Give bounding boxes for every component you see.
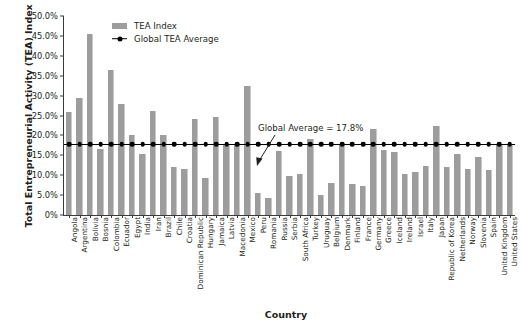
- x-axis-category-label: South Africa: [302, 217, 309, 261]
- x-axis-title: Country: [58, 309, 514, 320]
- x-axis-category-label: Bolivia: [92, 217, 99, 241]
- x-axis-category-label: Hungary: [207, 217, 214, 248]
- x-axis-category-label: Israel: [417, 217, 424, 237]
- x-axis-category-label: Italy: [427, 217, 434, 233]
- x-axis-category-label: France: [365, 217, 372, 241]
- bar: [339, 145, 346, 215]
- x-axis-category-label: Spain: [490, 217, 497, 237]
- x-axis-category-labels: AngolaArgentinaBoliviaBosniaColombiaEcua…: [63, 217, 514, 307]
- x-axis-category-label: Republic of Korea: [448, 217, 455, 281]
- bar: [486, 170, 493, 215]
- bar: [181, 169, 188, 215]
- x-axis-category-label: Iceland: [396, 217, 403, 243]
- x-axis-category-label: Russia: [281, 217, 288, 240]
- x-axis-category-label: United States: [511, 217, 518, 266]
- x-axis-category-label: Denmark: [344, 217, 351, 251]
- x-axis-category-label: Iran: [155, 217, 162, 231]
- bar: [265, 198, 272, 215]
- global-average-annotation: Global Average = 17.8%: [258, 123, 363, 133]
- bar: [192, 119, 199, 215]
- bar: [244, 86, 251, 215]
- bar: [171, 167, 178, 215]
- x-axis-category-label: Japan: [438, 217, 445, 237]
- plot-area: 0%5.0%10.0%15.0%20.0%25.0%30.0%35.0%40.0…: [63, 16, 515, 216]
- bar: [286, 176, 293, 215]
- x-axis-category-label: Brazil: [165, 217, 172, 237]
- bar: [223, 145, 230, 215]
- x-axis-category-label: Germany: [375, 217, 382, 251]
- x-axis-category-label: Norway: [469, 217, 476, 245]
- x-axis-category-label: Serbia: [291, 217, 298, 240]
- bar: [507, 145, 514, 215]
- bar: [360, 186, 367, 215]
- bar: [297, 174, 304, 215]
- bar: [76, 98, 83, 215]
- bar: [255, 193, 262, 215]
- x-axis-category-label: Mexico: [249, 217, 256, 242]
- bar: [150, 111, 157, 215]
- bar: [475, 157, 482, 215]
- x-axis-category-label: India: [144, 217, 151, 235]
- x-axis-category-label: Finland: [354, 217, 361, 243]
- chart-legend: TEA Index Global TEA Average: [112, 19, 219, 45]
- bar: [307, 139, 314, 215]
- bar: [412, 172, 419, 215]
- bar: [139, 154, 146, 215]
- x-axis-category-label: Ireland: [406, 217, 413, 242]
- bar: [318, 195, 325, 215]
- bar: [202, 178, 209, 215]
- bar: [328, 183, 335, 215]
- annotation-arrow-icon: [253, 133, 277, 167]
- x-axis-category-label: Egypt: [134, 217, 141, 238]
- x-axis-category-label: Ecuador: [123, 217, 130, 247]
- tea-index-bar-chart: Total Entrepreneurial Activity (TEA) Ind…: [0, 0, 522, 331]
- x-axis-category-label: Belgium: [333, 217, 340, 247]
- x-axis-category-label: Romania: [270, 217, 277, 249]
- bar: [391, 152, 398, 215]
- bar: [454, 154, 461, 215]
- bar: [349, 184, 356, 215]
- legend-item-tea-index: TEA Index: [112, 19, 219, 32]
- x-axis-category-label: Argentina: [81, 217, 88, 253]
- x-axis-category-label: Angola: [71, 217, 78, 242]
- x-axis-category-label: Slovenia: [480, 217, 487, 248]
- y-axis-title: Total Entrepreneurial Activity (TEA) Ind…: [23, 18, 34, 228]
- x-axis-category-label: Turkey: [312, 217, 319, 241]
- bar: [66, 112, 73, 215]
- bar: [465, 169, 472, 215]
- bar: [423, 166, 430, 215]
- bar: [129, 135, 136, 215]
- bar: [118, 104, 125, 215]
- bar: [381, 150, 388, 215]
- legend-item-global-average: Global TEA Average: [112, 32, 219, 45]
- x-axis-category-label: Netherlands: [459, 217, 466, 261]
- x-axis-category-label: Uruguay: [323, 217, 330, 248]
- bar: [444, 167, 451, 215]
- x-axis-category-label: Colombia: [113, 217, 120, 251]
- x-axis-category-label: Macedonia: [239, 217, 246, 257]
- x-axis-category-label: United Kingdom: [501, 217, 508, 276]
- legend-line-marker-icon: [112, 36, 127, 42]
- bar: [213, 117, 220, 215]
- bar: [433, 126, 440, 215]
- bar: [234, 145, 241, 215]
- bar-series-tea-index: [64, 16, 515, 215]
- bar: [160, 135, 167, 215]
- bar: [402, 174, 409, 215]
- x-axis-category-label: Peru: [260, 217, 267, 233]
- legend-bar-swatch-icon: [112, 23, 127, 29]
- x-axis-category-label: Greece: [385, 217, 392, 243]
- global-average-line: [64, 144, 515, 145]
- bar: [97, 149, 104, 215]
- x-axis-category-label: Dominican Republic: [197, 217, 204, 289]
- bar: [87, 34, 94, 215]
- legend-label-global-average: Global TEA Average: [134, 34, 219, 44]
- x-axis-category-label: Croatia: [186, 217, 193, 243]
- legend-label-tea-index: TEA Index: [134, 21, 177, 31]
- bar: [496, 145, 503, 215]
- x-axis-category-label: Bosnia: [102, 217, 109, 241]
- x-axis-category-label: Jamaica: [218, 217, 225, 246]
- x-axis-category-label: Latvia: [228, 217, 235, 239]
- x-axis-category-label: Chile: [176, 217, 183, 235]
